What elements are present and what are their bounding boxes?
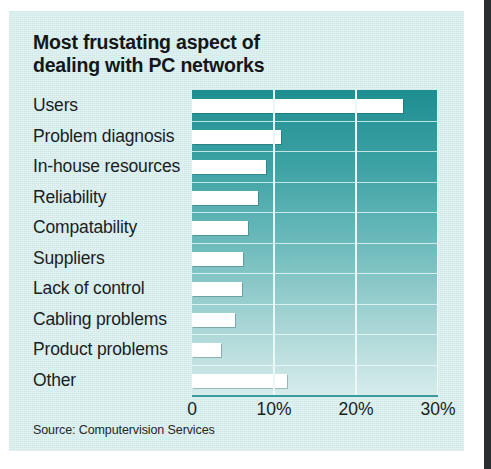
bar: [192, 160, 266, 174]
bar: [192, 252, 243, 266]
value-tick-label: 30%: [420, 398, 455, 420]
category-label: Other: [33, 365, 203, 396]
bar: [192, 343, 221, 357]
category-label: Suppliers: [33, 243, 203, 274]
category-label: Cabling problems: [33, 304, 203, 335]
chart-card: Most frustating aspect of dealing with P…: [9, 11, 464, 451]
source-note: Source: Computervision Services: [33, 423, 215, 437]
value-gridline: [355, 90, 357, 395]
value-tick-label: 20%: [338, 398, 373, 420]
bar: [192, 313, 235, 327]
bar: [192, 130, 281, 144]
category-label: Users: [33, 90, 203, 121]
column-rule: [484, 0, 491, 469]
value-axis-ticks: 010%20%30%: [192, 398, 452, 422]
figure-page: Most frustating aspect of dealing with P…: [0, 0, 491, 469]
row-gridline: [192, 243, 438, 244]
category-label: Product problems: [33, 334, 203, 365]
category-label: Problem diagnosis: [33, 121, 203, 152]
row-gridline: [192, 365, 438, 366]
bar-chart: UsersProblem diagnosisIn-house resources…: [9, 11, 464, 451]
row-gridline: [192, 334, 438, 335]
value-tick-label: 0: [187, 398, 197, 420]
bar: [192, 99, 403, 113]
row-gridline: [192, 121, 438, 122]
row-gridline: [192, 212, 438, 213]
value-tick-label: 10%: [256, 398, 291, 420]
category-axis-labels: UsersProblem diagnosisIn-house resources…: [33, 90, 203, 395]
category-label: In-house resources: [33, 151, 203, 182]
bar: [192, 191, 258, 205]
category-label: Compatability: [33, 212, 203, 243]
category-label: Reliability: [33, 182, 203, 213]
value-gridline: [273, 90, 275, 395]
bar: [192, 221, 248, 235]
value-gridline: [437, 90, 438, 395]
bar: [192, 282, 242, 296]
row-gridline: [192, 151, 438, 152]
value-axis-line: [192, 395, 438, 397]
row-gridline: [192, 182, 438, 183]
row-gridline: [192, 273, 438, 274]
row-gridline: [192, 304, 438, 305]
plot-area: [192, 90, 438, 395]
category-label: Lack of control: [33, 273, 203, 304]
